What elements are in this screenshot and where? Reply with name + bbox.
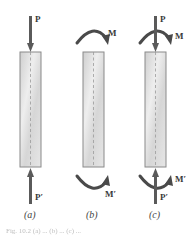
- subcaption-c: (c): [149, 210, 160, 220]
- force-arrow-p-prime-a-icon: [27, 168, 34, 204]
- label-m-b: M: [108, 29, 117, 38]
- panel-b: [77, 31, 110, 188]
- subcaption-b-text: (b): [86, 209, 98, 220]
- subcaption-a-text: (a): [24, 209, 36, 220]
- label-m-prime-c: M′: [175, 175, 186, 184]
- label-p-c: P: [160, 15, 166, 24]
- force-arrow-p-c-icon: [152, 16, 159, 52]
- label-p-prime-c: P′: [160, 193, 168, 202]
- moment-arrow-m-prime-b-icon: [77, 175, 110, 188]
- panel-c: [140, 16, 173, 204]
- label-m-c: M: [175, 32, 184, 41]
- subcaption-a: (a): [24, 210, 36, 220]
- figure-caption: Fig. 10.2 (a) ... (b) ... (c) ...: [6, 228, 192, 235]
- column-loading-figure: P P′ M M′ P M M′ P′ (a) (b) (c) Fig. 10.…: [0, 0, 196, 235]
- label-p-prime-a: P′: [35, 193, 43, 202]
- label-m-prime-b: M′: [105, 190, 116, 199]
- label-p-a: P: [35, 15, 41, 24]
- moment-arrow-m-b-icon: [77, 31, 110, 45]
- subcaption-c-text: (c): [149, 209, 160, 220]
- panel-a: [20, 16, 41, 204]
- force-arrow-p-a-icon: [27, 16, 34, 52]
- subcaption-b: (b): [86, 210, 98, 220]
